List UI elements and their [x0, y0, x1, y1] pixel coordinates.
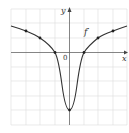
x-axis-label: x — [122, 55, 127, 63]
grid — [11, 9, 127, 125]
curve-f-prime — [11, 26, 127, 110]
y-axis-arrow-icon — [68, 7, 72, 12]
chart-canvas — [0, 0, 129, 133]
curve-label: f′ — [84, 28, 89, 37]
y-axis-label: y — [61, 7, 66, 15]
origin-label: 0 — [63, 55, 67, 62]
